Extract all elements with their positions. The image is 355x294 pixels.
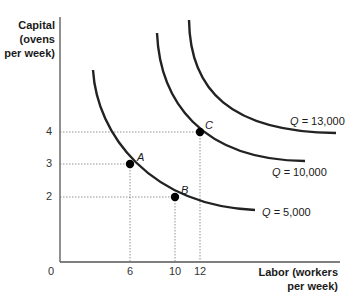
x-axis-label: Labor (workers per week): [259, 265, 338, 293]
y-axis-label-line-3: per week): [4, 46, 55, 60]
y-tick-2: 2: [46, 190, 52, 202]
point-b: [171, 193, 179, 201]
y-tick-3: 3: [46, 157, 52, 169]
q-var: Q: [290, 115, 299, 127]
x-tick-12: 12: [194, 265, 206, 277]
y-tick-4: 4: [46, 125, 52, 137]
y-axis-label: Capital (ovens per week): [4, 18, 55, 60]
isoquant-q10000-label: Q = 10,000: [272, 166, 327, 178]
isoquant-q5000: [93, 70, 255, 210]
point-c-label: C: [205, 119, 213, 131]
isoquant-q13000-label: Q = 13,000: [290, 115, 345, 127]
x-tick-6: 6: [127, 265, 133, 277]
q-var: Q: [262, 206, 271, 218]
y-axis-label-line-1: Capital: [4, 18, 55, 32]
q-value: = 5,000: [274, 206, 311, 218]
origin-label: 0: [48, 265, 54, 277]
q-value: = 10,000: [284, 166, 327, 178]
x-axis-label-line-1: Labor (workers: [259, 265, 338, 279]
point-a: [126, 160, 134, 168]
y-axis-label-line-2: (ovens: [4, 32, 55, 46]
q-value: = 13,000: [302, 115, 345, 127]
isoquant-q10000: [157, 33, 305, 161]
q-var: Q: [272, 166, 281, 178]
x-axis-label-line-2: per week): [259, 279, 338, 293]
point-c: [196, 128, 204, 136]
point-b-label: B: [181, 184, 188, 196]
point-a-label: A: [137, 151, 144, 163]
x-tick-10: 10: [169, 265, 181, 277]
isoquant-q5000-label: Q = 5,000: [262, 206, 311, 218]
